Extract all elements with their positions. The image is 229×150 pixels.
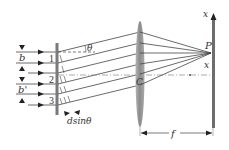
label-f: f <box>170 128 177 139</box>
f-arrow-right-icon <box>206 131 212 136</box>
screen <box>212 17 215 128</box>
label-b: b <box>19 52 25 63</box>
label-C: C <box>136 77 143 87</box>
theta-arc <box>85 46 86 52</box>
incident-arrowheads <box>38 50 44 108</box>
label-P: P <box>204 40 212 51</box>
diffraction-diagram: b b' 1 2 3 θ dsinθ C <box>0 0 229 150</box>
f-arrow-left-icon <box>141 131 147 136</box>
axis-point <box>189 74 191 76</box>
label-dsin-theta: dsinθ <box>67 116 92 126</box>
slit-number-2: 2 <box>49 74 54 85</box>
label-b-prime: b' <box>18 84 27 95</box>
x-axis-arrow-icon <box>211 13 217 20</box>
diffracted-rays <box>58 32 140 105</box>
converging-rays <box>140 32 211 85</box>
slit-number-1: 1 <box>49 53 54 64</box>
slit-number-3: 3 <box>49 95 54 106</box>
label-theta: θ <box>87 43 93 53</box>
label-x: x <box>204 60 209 70</box>
grating <box>56 43 59 115</box>
label-x-axis: x <box>203 9 208 19</box>
